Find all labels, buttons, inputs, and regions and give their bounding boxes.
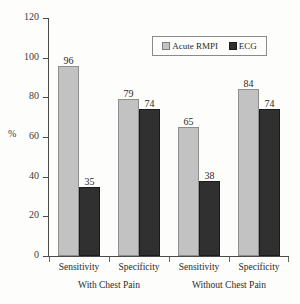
- bar-value-label: 38: [205, 170, 215, 181]
- x-label-sensitivity-with-chest-pain: Sensitivity: [49, 261, 109, 273]
- x-label-sensitivity-without-chest-pain: Sensitivity: [169, 261, 229, 273]
- bar-acute-rmpi-without-chest-pain-sensitivity[interactable]: 65: [178, 127, 199, 256]
- bar-ecg-with-chest-pain-sensitivity[interactable]: 35: [79, 187, 100, 256]
- legend-label-acute-rmpi: Acute RMPI: [172, 41, 218, 51]
- bar-ecg-without-chest-pain-specificity[interactable]: 74: [259, 109, 280, 256]
- x-label-specificity-with-chest-pain: Specificity: [109, 261, 169, 273]
- y-tick-label-0: 0: [34, 249, 39, 261]
- chart-figure: 120 100 80 60 40 20 0 % 96 35: [0, 0, 300, 304]
- bar-ecg-with-chest-pain-specificity[interactable]: 74: [139, 109, 160, 256]
- chart-legend: Acute RMPI ECG: [152, 36, 267, 56]
- y-tick-label-80: 80: [29, 90, 39, 102]
- y-tick-label-100: 100: [24, 51, 39, 63]
- bar-acute-rmpi-with-chest-pain-sensitivity[interactable]: 96: [58, 66, 79, 256]
- bar-value-label: 35: [85, 176, 95, 187]
- legend-swatch-acute-rmpi-icon: [162, 42, 170, 50]
- bar-value-label: 74: [265, 98, 275, 109]
- bar-value-label: 79: [124, 88, 134, 99]
- x-label-specificity-without-chest-pain: Specificity: [229, 261, 289, 273]
- y-tick-label-60: 60: [29, 130, 39, 142]
- y-tick-label-40: 40: [29, 170, 39, 182]
- bar-acute-rmpi-with-chest-pain-specificity[interactable]: 79: [118, 99, 139, 256]
- group-label-with-chest-pain: With Chest Pain: [49, 279, 169, 291]
- legend-label-ecg: ECG: [239, 41, 257, 51]
- bar-value-label: 65: [184, 116, 194, 127]
- bar-ecg-without-chest-pain-sensitivity[interactable]: 38: [199, 181, 220, 256]
- legend-item-acute-rmpi[interactable]: Acute RMPI: [162, 41, 218, 51]
- bar-acute-rmpi-without-chest-pain-specificity[interactable]: 84: [238, 89, 259, 256]
- bar-value-label: 84: [244, 78, 254, 89]
- y-tick-label-120: 120: [24, 11, 39, 23]
- y-tick-label-20: 20: [29, 209, 39, 221]
- bar-value-label: 74: [145, 98, 155, 109]
- group-label-without-chest-pain: Without Chest Pain: [169, 279, 289, 291]
- legend-item-ecg[interactable]: ECG: [229, 41, 257, 51]
- y-axis-title: %: [8, 128, 16, 139]
- bar-value-label: 96: [64, 55, 74, 66]
- legend-swatch-ecg-icon: [229, 42, 237, 50]
